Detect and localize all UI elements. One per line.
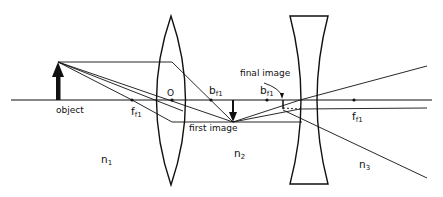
object-label: object (56, 105, 84, 115)
f2-label: ff1 (352, 110, 363, 124)
optical-diagram: object O first image final image ff1 bf1… (0, 0, 443, 197)
first-image-label: first image (189, 123, 238, 133)
point-b1 (209, 98, 212, 101)
point-o (170, 98, 173, 101)
center-o-label: O (167, 88, 174, 98)
point-b2 (265, 98, 268, 101)
point-f1 (130, 98, 133, 101)
f1-label: ff1 (131, 105, 142, 119)
object-arrow-icon (52, 62, 64, 100)
n3-label: n3 (359, 158, 370, 172)
point-f2 (352, 98, 355, 101)
b1-label: bf1 (209, 84, 223, 98)
final-image-label: final image (240, 68, 291, 78)
n1-label: n1 (101, 153, 112, 167)
n2-label: n2 (234, 147, 245, 161)
